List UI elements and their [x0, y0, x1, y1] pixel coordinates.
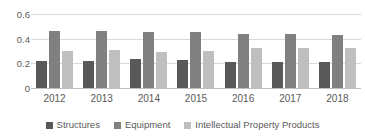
bar [319, 62, 330, 88]
bar [345, 48, 356, 88]
axis-baseline [31, 88, 361, 89]
bar-group [314, 14, 361, 88]
x-axis-tick-label: 2015 [172, 91, 219, 107]
legend-item[interactable]: Equipment [114, 120, 170, 130]
bar [177, 60, 188, 88]
x-axis-tick-label: 2013 [78, 91, 125, 107]
bar [96, 31, 107, 88]
bar-group [31, 14, 78, 88]
bar [49, 31, 60, 88]
y-axis-tick-label: 0 [2, 84, 30, 94]
y-axis-tick-label: 0.4 [2, 35, 30, 45]
x-axis-tick-label: 2016 [220, 91, 267, 107]
plot-area [31, 14, 361, 88]
bar-chart: 00.20.40.6 2012201320142015201620172018 … [0, 0, 365, 140]
x-axis-tick-label: 2012 [31, 91, 78, 107]
bar [130, 59, 141, 88]
bar-group [125, 14, 172, 88]
bar [298, 48, 309, 88]
legend-item[interactable]: Intellectual Property Products [184, 120, 319, 130]
bar [203, 51, 214, 88]
y-axis-tick-label: 0.2 [2, 59, 30, 69]
chart-legend: StructuresEquipmentIntellectual Property… [0, 118, 365, 132]
legend-label: Structures [57, 120, 100, 130]
x-axis: 2012201320142015201620172018 [31, 91, 361, 107]
bar [109, 50, 120, 88]
x-axis-tick-label: 2014 [125, 91, 172, 107]
bar-group [220, 14, 267, 88]
bar [143, 32, 154, 88]
bar [62, 51, 73, 88]
bar [225, 62, 236, 88]
bar [190, 32, 201, 88]
bar [36, 61, 47, 88]
bar-group [172, 14, 219, 88]
bar [332, 35, 343, 88]
legend-label: Intellectual Property Products [195, 120, 319, 130]
bar [285, 34, 296, 88]
legend-label: Equipment [125, 120, 170, 130]
bar-group [78, 14, 125, 88]
bar [238, 34, 249, 88]
legend-swatch-icon [114, 122, 121, 129]
bar [251, 48, 262, 88]
legend-swatch-icon [184, 122, 191, 129]
bar [83, 61, 94, 88]
bar [156, 52, 167, 88]
bar [272, 62, 283, 88]
legend-swatch-icon [46, 122, 53, 129]
legend-item[interactable]: Structures [46, 120, 100, 130]
bar-group [267, 14, 314, 88]
x-axis-tick-label: 2018 [314, 91, 361, 107]
y-axis-tick-label: 0.6 [2, 10, 30, 20]
x-axis-tick-label: 2017 [267, 91, 314, 107]
bar-groups [31, 14, 361, 88]
